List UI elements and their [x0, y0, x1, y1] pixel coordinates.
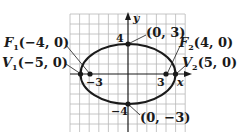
- label-v1: V1(−5, 0): [2, 55, 68, 72]
- point-top: [125, 41, 130, 46]
- label-v2: V2(5, 0): [182, 55, 237, 72]
- x-axis-arrow-icon: [184, 71, 192, 77]
- point-v2: [173, 71, 178, 76]
- ellipse-diagram: y x 4 −4 −3 3 F1(−4, 0): [0, 0, 240, 132]
- label-bottom: (0, −3): [140, 110, 190, 125]
- point-f2: [163, 71, 168, 76]
- tick-x-neg3: −3: [86, 76, 103, 89]
- tick-y-4: 4: [116, 32, 124, 45]
- x-axis-label: x: [176, 76, 184, 89]
- tick-x-3: 3: [157, 76, 165, 89]
- point-f1: [87, 71, 92, 76]
- label-f1: F1(−4, 0): [3, 35, 69, 52]
- y-axis-arrow-icon: [125, 12, 131, 20]
- tick-y-neg4: −4: [111, 105, 128, 118]
- point-v1: [78, 71, 83, 76]
- label-f2: F2(4, 0): [178, 35, 233, 52]
- point-bottom: [125, 101, 130, 106]
